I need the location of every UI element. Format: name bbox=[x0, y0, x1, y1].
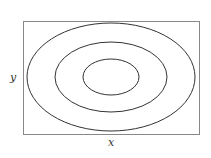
contour-group bbox=[27, 23, 195, 131]
contour-middle bbox=[55, 42, 167, 112]
y-axis-label: y bbox=[9, 71, 17, 84]
contour-outer bbox=[27, 23, 195, 131]
x-axis-label: x bbox=[108, 136, 115, 149]
contour-inner bbox=[83, 59, 139, 95]
contour-plot: y x bbox=[0, 0, 211, 158]
plot-frame bbox=[24, 22, 200, 135]
